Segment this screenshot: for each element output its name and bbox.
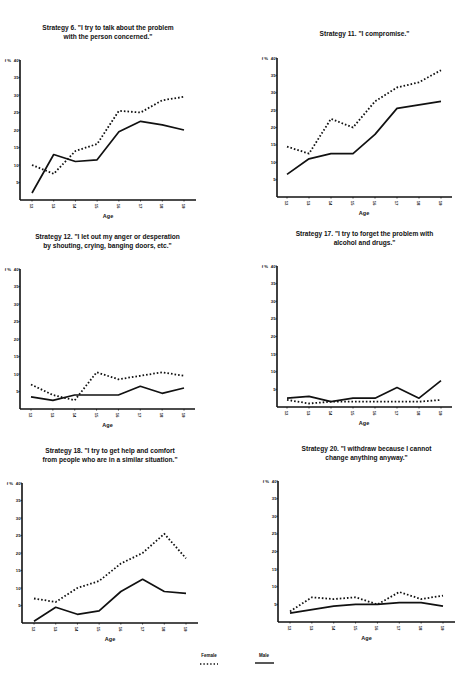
series-line-male (34, 579, 186, 621)
x-tick-label: 19 (181, 204, 186, 209)
y-tick-label: 15 (16, 568, 21, 573)
x-tick-label: 14 (74, 627, 79, 632)
y-axis-label: f % (5, 58, 12, 63)
chart-title: with the person concerned." (63, 33, 153, 41)
y-tick-label: 20 (16, 551, 21, 556)
x-tick-label: 14 (72, 413, 77, 418)
y-tick-label: 35 (14, 284, 19, 289)
x-tick-label: 14 (328, 411, 333, 416)
series-line-male (287, 381, 441, 402)
chart-title: Strategy 12. "I let out my anger or desp… (35, 233, 180, 241)
y-tick-label: 25 (14, 319, 19, 324)
y-tick-label: 25 (16, 533, 21, 538)
x-axis-label: Age (105, 636, 115, 642)
chart-title: Strategy 20. "I withdraw because I canno… (302, 445, 433, 453)
x-tick-label: 18 (416, 411, 421, 416)
x-tick-label: 13 (306, 411, 311, 416)
x-tick-label: 18 (159, 413, 164, 418)
x-axis-label: Age (359, 420, 369, 426)
y-tick-label: 20 (272, 549, 277, 554)
x-tick-label: 18 (416, 201, 421, 206)
y-tick-label: 35 (271, 281, 276, 286)
chart-panel-5: Strategy 18. "I try to get help and comf… (7, 447, 198, 642)
series-line-male (290, 603, 443, 614)
series-line-female (287, 400, 441, 404)
x-tick-label: 12 (28, 413, 33, 418)
y-axis-label: f % (263, 479, 270, 484)
x-tick-label: 13 (50, 413, 55, 418)
x-tick-label: 19 (440, 626, 445, 631)
series-line-male (32, 121, 184, 193)
y-tick-label: 10 (271, 160, 276, 165)
x-axis-label: Age (102, 422, 112, 428)
x-tick-label: 16 (374, 626, 379, 631)
chart-panel-4: Strategy 17. "I try to forget the proble… (262, 230, 452, 426)
x-tick-label: 13 (53, 627, 58, 632)
chart-legend: FemaleMale (200, 653, 274, 664)
y-tick-label: 20 (14, 128, 19, 133)
y-tick-label: 15 (14, 145, 19, 150)
x-tick-label: 17 (137, 413, 142, 418)
y-tick-label: 15 (271, 352, 276, 357)
y-tick-label: 30 (14, 302, 19, 307)
x-tick-label: 12 (284, 201, 289, 206)
y-tick-label: 10 (271, 369, 276, 374)
x-tick-label: 16 (372, 411, 377, 416)
y-tick-label: 10 (272, 584, 277, 589)
y-tick-label: 40 (271, 56, 276, 61)
x-tick-label: 14 (72, 204, 77, 209)
x-tick-label: 18 (161, 627, 166, 632)
x-tick-label: 16 (116, 204, 121, 209)
y-tick-label: 40 (16, 481, 21, 486)
chart-title: Strategy 11. "I compromise." (320, 30, 410, 38)
y-tick-label: 10 (14, 372, 19, 377)
series-line-male (31, 386, 184, 400)
x-tick-label: 19 (181, 413, 186, 418)
y-tick-label: 10 (14, 163, 19, 168)
y-tick-label: 20 (14, 337, 19, 342)
x-tick-label: 15 (96, 627, 101, 632)
chart-panel-3: Strategy 12. "I let out my anger or desp… (5, 233, 195, 428)
x-tick-label: 16 (372, 201, 377, 206)
x-tick-label: 15 (350, 411, 355, 416)
x-tick-label: 12 (29, 204, 34, 209)
series-line-female (290, 592, 443, 611)
x-tick-label: 16 (115, 413, 120, 418)
x-tick-label: 12 (287, 626, 292, 631)
y-tick-label: 40 (272, 479, 277, 484)
y-tick-label: 35 (16, 498, 21, 503)
y-axis-label: f % (262, 56, 269, 61)
y-tick-label: 15 (271, 142, 276, 147)
x-tick-label: 13 (306, 201, 311, 206)
y-tick-label: 25 (272, 531, 277, 536)
chart-title: change anything anyway." (325, 454, 408, 462)
y-tick-label: 35 (271, 73, 276, 78)
x-tick-label: 19 (183, 627, 188, 632)
y-tick-label: 25 (271, 108, 276, 113)
x-tick-label: 19 (438, 411, 443, 416)
y-tick-label: 20 (271, 125, 276, 130)
x-tick-label: 17 (138, 204, 143, 209)
y-tick-label: 25 (271, 316, 276, 321)
x-tick-label: 12 (31, 627, 36, 632)
x-tick-label: 15 (94, 204, 99, 209)
chart-title: Strategy 18. "I try to get help and comf… (45, 447, 175, 455)
x-tick-label: 15 (350, 201, 355, 206)
chart-panel-1: Strategy 6. "I try to talk about the pro… (5, 24, 196, 219)
chart-panel-6: Strategy 20. "I withdraw because I canno… (263, 445, 455, 641)
legend-female-label: Female (201, 653, 217, 658)
x-tick-label: 18 (418, 626, 423, 631)
y-tick-label: 40 (271, 264, 276, 269)
y-axis-label: f % (5, 267, 12, 272)
chart-title: from people who are in a similar situati… (42, 456, 177, 464)
y-axis-label: f % (7, 481, 14, 486)
y-tick-label: 30 (271, 299, 276, 304)
chart-title: by shouting, crying, banging doors, etc.… (43, 242, 171, 250)
x-tick-label: 13 (51, 204, 56, 209)
x-tick-label: 13 (309, 626, 314, 631)
y-tick-label: 25 (14, 110, 19, 115)
y-tick-label: 30 (271, 90, 276, 95)
series-line-female (31, 372, 184, 400)
x-tick-label: 17 (394, 201, 399, 206)
x-axis-label: Age (359, 210, 369, 216)
